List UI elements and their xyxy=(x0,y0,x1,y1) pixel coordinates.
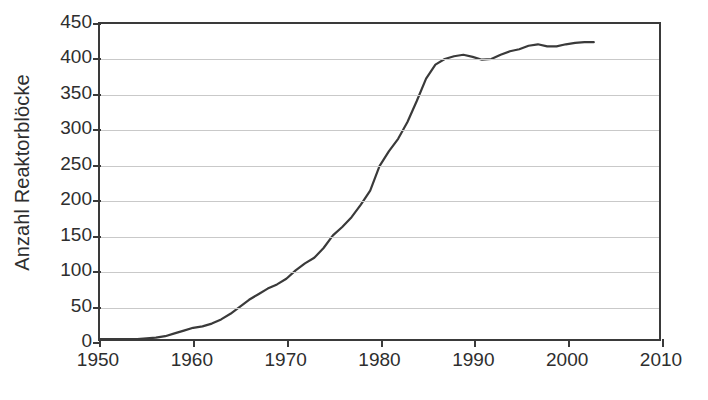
x-tick-label: 1980 xyxy=(340,349,420,371)
gridline-horizontal xyxy=(100,166,659,167)
y-tick-label: 50 xyxy=(46,296,92,315)
gridline-horizontal xyxy=(100,130,659,131)
gridline-horizontal xyxy=(100,237,659,238)
data-line-svg xyxy=(100,24,659,339)
y-tick-label: 300 xyxy=(46,118,92,137)
y-tick-mark xyxy=(93,58,101,60)
y-tick-mark xyxy=(93,236,101,238)
y-tick-mark xyxy=(93,200,101,202)
x-tick-label: 2000 xyxy=(527,349,607,371)
y-tick-label: 150 xyxy=(46,225,92,244)
x-tick-label: 1950 xyxy=(58,349,138,371)
y-axis-title-text: Anzahl Reaktorblöcke xyxy=(11,74,34,271)
gridline-horizontal xyxy=(100,201,659,202)
y-tick-label: 200 xyxy=(46,189,92,208)
y-tick-mark xyxy=(93,271,101,273)
x-tick-mark xyxy=(662,339,664,347)
y-tick-label: 400 xyxy=(46,47,92,66)
gridline-horizontal xyxy=(100,95,659,96)
reactor-count-line xyxy=(100,42,594,339)
gridline-horizontal xyxy=(100,272,659,273)
x-tick-label: 1960 xyxy=(152,349,232,371)
gridline-horizontal xyxy=(100,59,659,60)
y-tick-mark xyxy=(93,94,101,96)
y-tick-mark xyxy=(93,307,101,309)
y-axis-title: Anzahl Reaktorblöcke xyxy=(0,0,44,345)
y-axis-tick-labels: 050100150200250300350400450 xyxy=(44,0,92,400)
y-tick-mark xyxy=(93,129,101,131)
x-tick-mark xyxy=(474,339,476,347)
x-tick-mark xyxy=(193,339,195,347)
x-tick-mark xyxy=(568,339,570,347)
x-axis-tick-labels: 1950196019701980199020002010 xyxy=(98,349,661,389)
x-tick-mark xyxy=(287,339,289,347)
y-tick-mark xyxy=(93,23,101,25)
x-tick-mark xyxy=(381,339,383,347)
y-tick-label: 100 xyxy=(46,260,92,279)
y-tick-mark xyxy=(93,165,101,167)
x-tick-mark xyxy=(99,339,101,347)
y-tick-label: 250 xyxy=(46,154,92,173)
y-tick-label: 450 xyxy=(46,12,92,31)
plot-area xyxy=(98,22,661,341)
nuclear-reactor-count-chart: Anzahl Reaktorblöcke 0501001502002503003… xyxy=(0,0,708,400)
x-tick-label: 1990 xyxy=(433,349,513,371)
gridline-horizontal xyxy=(100,308,659,309)
x-tick-label: 1970 xyxy=(246,349,326,371)
y-tick-label: 0 xyxy=(46,331,92,350)
x-tick-label: 2010 xyxy=(621,349,701,371)
y-tick-label: 350 xyxy=(46,83,92,102)
